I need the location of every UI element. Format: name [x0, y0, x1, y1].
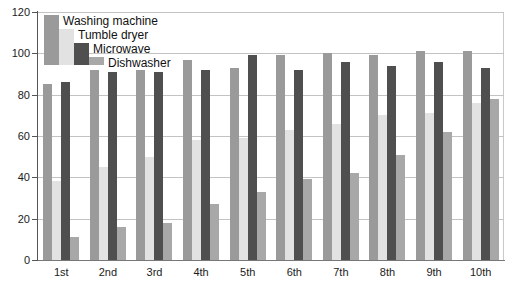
- bar: [332, 124, 341, 260]
- bar-group: [457, 12, 504, 260]
- bar: [463, 51, 472, 260]
- y-axis-tick: [32, 260, 38, 261]
- bar: [434, 62, 443, 260]
- x-axis-tick-label: 8th: [380, 266, 395, 278]
- bar: [396, 155, 405, 260]
- legend-item-dishwasher: Dishwasher: [89, 57, 171, 69]
- y-axis-tick-label: 40: [0, 171, 30, 183]
- x-axis-tick-label: 6th: [287, 266, 302, 278]
- y-axis-tick-label: 80: [0, 89, 30, 101]
- bar: [163, 223, 172, 260]
- legend-swatch-tumble-dryer: [59, 29, 74, 65]
- x-axis-tick-label: 2nd: [99, 266, 117, 278]
- x-axis-line: [37, 260, 505, 261]
- bar: [257, 192, 266, 260]
- legend-swatch-washing-machine: [44, 15, 59, 65]
- legend-label-microwave: Microwave: [93, 43, 150, 55]
- bar: [230, 68, 239, 260]
- legend-label-dishwasher: Dishwasher: [108, 57, 171, 69]
- y-axis-tick-label: 100: [0, 47, 30, 59]
- bar: [154, 72, 163, 260]
- x-axis-tick-label: 9th: [426, 266, 441, 278]
- bar: [350, 173, 359, 260]
- x-axis-tick-label: 3rd: [147, 266, 163, 278]
- x-axis-tick-label: 5th: [240, 266, 255, 278]
- y-axis-tick-label: 0: [0, 254, 30, 266]
- legend-label-tumble-dryer: Tumble dryer: [78, 29, 148, 41]
- legend-swatch-dishwasher: [89, 57, 104, 65]
- bar: [387, 66, 396, 260]
- bar: [145, 157, 154, 260]
- bar: [201, 70, 210, 260]
- x-axis-tick-label: 10th: [470, 266, 491, 278]
- bar: [192, 140, 201, 260]
- bar: [43, 84, 52, 260]
- y-axis-tick-label: 120: [0, 6, 30, 18]
- y-axis-tick-label: 20: [0, 213, 30, 225]
- bar: [481, 68, 490, 260]
- bar: [183, 60, 192, 260]
- bar-group: [271, 12, 318, 260]
- bar-group: [318, 12, 365, 260]
- bar: [490, 99, 499, 260]
- x-axis-tick-label: 4th: [193, 266, 208, 278]
- bar: [70, 237, 79, 260]
- y-axis-tick-label: 60: [0, 130, 30, 142]
- bar: [276, 55, 285, 260]
- bar: [472, 103, 481, 260]
- bar: [210, 204, 219, 260]
- bar-group: [364, 12, 411, 260]
- bar-group: [411, 12, 458, 260]
- bar: [341, 62, 350, 260]
- bar: [108, 72, 117, 260]
- bar: [303, 179, 312, 260]
- bar: [90, 70, 99, 260]
- bar: [61, 82, 70, 260]
- bar: [117, 227, 126, 260]
- bar-chart: 020406080100120 1st2nd3rd4th5th6th7th8th…: [0, 0, 510, 303]
- bar: [248, 55, 257, 260]
- bar: [425, 113, 434, 260]
- legend-label-washing-machine: Washing machine: [63, 15, 158, 27]
- bar: [443, 132, 452, 260]
- x-axis-tick-label: 7th: [333, 266, 348, 278]
- bar: [285, 130, 294, 260]
- bar: [416, 51, 425, 260]
- x-axis-tick-label: 1st: [54, 266, 69, 278]
- bar: [99, 167, 108, 260]
- bar-group: [178, 12, 225, 260]
- bar: [52, 181, 61, 260]
- bar: [369, 55, 378, 260]
- legend-swatch-microwave: [74, 43, 89, 65]
- bar: [294, 70, 303, 260]
- bar: [323, 53, 332, 260]
- bar: [378, 115, 387, 260]
- bar: [239, 138, 248, 260]
- bar: [136, 70, 145, 260]
- bar-group: [224, 12, 271, 260]
